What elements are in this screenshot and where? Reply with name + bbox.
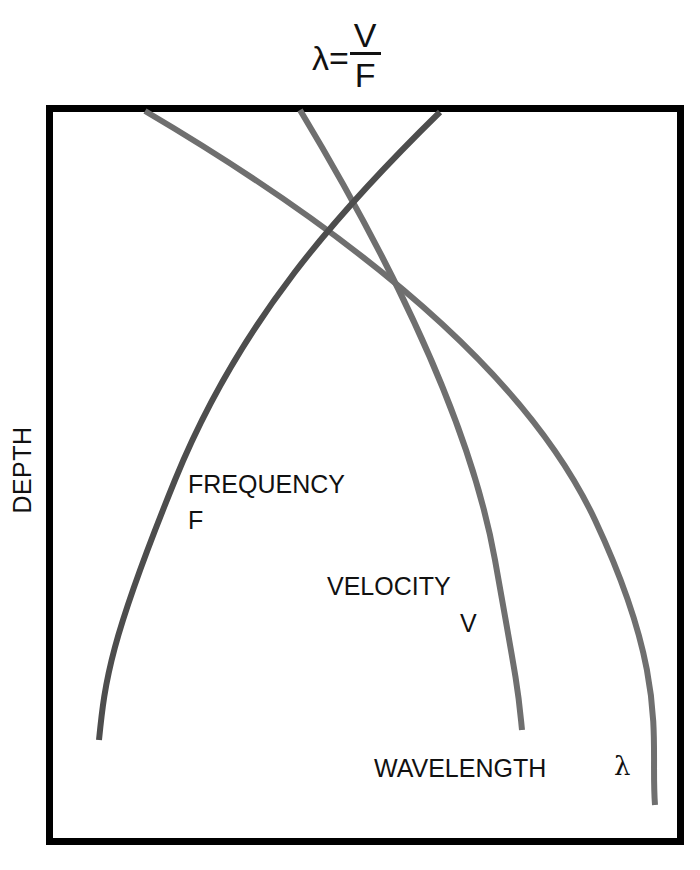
depth-axis-label: DEPTH	[8, 426, 37, 513]
wavelength-label: WAVELENGTH	[374, 752, 546, 784]
frequency-curve	[99, 112, 440, 740]
velocity-curve	[300, 110, 522, 730]
velocity-label: VELOCITY	[327, 570, 451, 602]
frequency-symbol: F	[188, 504, 203, 536]
curves-layer	[0, 0, 700, 870]
wavelength-curve	[145, 111, 655, 805]
velocity-symbol: V	[460, 607, 477, 639]
frequency-label: FREQUENCY	[188, 468, 345, 500]
wavelength-symbol: λ	[614, 750, 630, 782]
